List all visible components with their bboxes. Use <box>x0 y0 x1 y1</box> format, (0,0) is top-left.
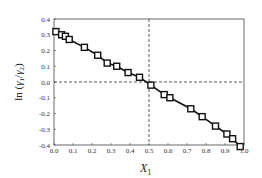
data-point-square-marker <box>199 114 205 120</box>
y-tick-label: 0.4 <box>41 16 50 24</box>
y-axis-ticks: 0.40.30.20.10.0-0.1-0.2-0.3-0.4 <box>39 16 56 150</box>
data-point-square-marker <box>230 136 236 142</box>
y-tick-label: 0.1 <box>41 63 50 71</box>
x-tick-label: 1.0 <box>240 147 249 155</box>
data-point-square-marker <box>213 123 219 129</box>
x-tick-label: 0.3 <box>107 147 116 155</box>
x-tick-label: 0.4 <box>126 147 135 155</box>
y-tick-label: -0.2 <box>39 110 51 118</box>
plot-area <box>53 19 244 150</box>
data-point-square-marker <box>66 36 72 42</box>
x-tick-label: 0.8 <box>202 147 211 155</box>
y-tick-label: -0.1 <box>39 94 51 102</box>
x-tick-label: 0.1 <box>69 147 78 155</box>
x-tick-label: 0.9 <box>221 147 230 155</box>
data-point-square-marker <box>125 70 131 76</box>
y-tick-label: 0.2 <box>41 47 50 55</box>
y-axis-label: ln (γ1/γ2) <box>12 63 26 101</box>
data-point-square-marker <box>81 44 87 50</box>
data-point-square-marker <box>188 106 194 112</box>
y-tick-label: -0.3 <box>39 126 51 134</box>
y-tick-label: -0.4 <box>39 142 51 150</box>
data-point-square-marker <box>137 74 143 80</box>
x-tick-label: 0.6 <box>164 147 173 155</box>
data-point-square-marker <box>114 63 120 69</box>
x-tick-label: 0.2 <box>88 147 97 155</box>
x-tick-label: 0.5 <box>145 147 154 155</box>
svg-text:ln (γ1/γ2): ln (γ1/γ2) <box>12 63 26 101</box>
data-point-square-marker <box>148 82 154 88</box>
x-axis-label: X1 <box>139 161 151 177</box>
data-point-square-marker <box>167 95 173 101</box>
chart: 0.00.10.20.30.40.50.60.70.80.91.0 0.40.3… <box>0 0 262 178</box>
x-tick-label: 0.0 <box>50 147 59 155</box>
y-tick-label: 0.3 <box>41 31 50 39</box>
data-point-square-marker <box>95 52 101 58</box>
data-point-square-marker <box>104 60 110 66</box>
y-tick-label: 0.0 <box>41 79 50 87</box>
x-tick-label: 0.7 <box>183 147 192 155</box>
